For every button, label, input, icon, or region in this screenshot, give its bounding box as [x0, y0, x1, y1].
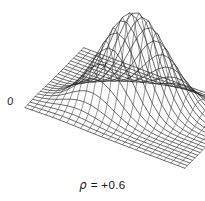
mesh-row — [58, 17, 205, 134]
figure-caption: ρ = +0.6 — [0, 180, 205, 192]
mesh-row — [30, 102, 190, 163]
mesh-row — [38, 91, 198, 155]
surface-plot-figure: 0 ρ = +0.6 — [0, 0, 205, 201]
mesh-lines-y — [25, 13, 205, 168]
mesh-column — [81, 41, 140, 129]
mesh-column — [53, 58, 112, 117]
mesh-row — [76, 56, 205, 115]
caption-value: +0.6 — [101, 179, 125, 191]
origin-axis-label: 0 — [6, 96, 13, 108]
mesh-row — [33, 99, 193, 160]
mesh-column — [164, 99, 205, 160]
mesh-column — [101, 13, 160, 137]
caption-rho-symbol: ρ — [79, 178, 87, 192]
wireframe-surface — [0, 0, 205, 201]
mesh-row — [28, 105, 188, 166]
mesh-column — [25, 48, 84, 108]
caption-relation: = — [91, 179, 98, 191]
